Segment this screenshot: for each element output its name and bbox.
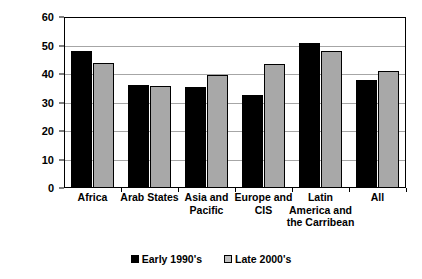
y-axis-tick-label: 40	[42, 68, 54, 80]
bar-early-1990s[interactable]	[299, 43, 320, 188]
bar-late-2000s[interactable]	[264, 64, 285, 188]
x-axis-categories: AfricaArab StatesAsia and PacificEurope …	[64, 191, 406, 251]
legend-item-label: Late 2000's	[235, 253, 291, 265]
bar-early-1990s[interactable]	[242, 95, 263, 188]
y-axis-tick-label: 60	[42, 11, 54, 23]
bar-early-1990s[interactable]	[71, 51, 92, 188]
legend-item[interactable]: Early 1990's	[131, 253, 202, 265]
bar-late-2000s[interactable]	[150, 86, 171, 188]
bar-group	[299, 17, 342, 188]
bar-group	[242, 17, 285, 188]
x-axis-tick-mark	[235, 188, 236, 192]
legend-item[interactable]: Late 2000's	[224, 253, 291, 265]
x-axis-tick-mark	[406, 188, 407, 192]
bar-group	[185, 17, 228, 188]
legend-swatch-gray-icon	[224, 255, 232, 263]
x-axis-tick-mark	[121, 188, 122, 192]
y-axis-tick-label: 20	[42, 125, 54, 137]
y-axis: 0102030405060	[0, 17, 64, 188]
legend-swatch-black-icon	[131, 255, 139, 263]
bar-late-2000s[interactable]	[93, 63, 114, 188]
bar-group	[356, 17, 399, 188]
y-axis-tick-label: 10	[42, 154, 54, 166]
bars-layer	[64, 17, 406, 188]
y-axis-tick-label: 0	[48, 182, 54, 194]
x-axis-tick-mark	[292, 188, 293, 192]
bar-early-1990s[interactable]	[185, 87, 206, 188]
bar-group	[71, 17, 114, 188]
x-axis-tick-mark	[178, 188, 179, 192]
y-axis-tick-label: 50	[42, 40, 54, 52]
bar-late-2000s[interactable]	[207, 75, 228, 188]
chart-legend: Early 1990'sLate 2000's	[0, 253, 422, 265]
x-axis-category-label: All	[341, 191, 414, 204]
bar-late-2000s[interactable]	[378, 71, 399, 188]
bar-chart: 0102030405060 AfricaArab StatesAsia and …	[0, 0, 422, 279]
bar-group	[128, 17, 171, 188]
bar-early-1990s[interactable]	[128, 85, 149, 188]
y-axis-tick-label: 30	[42, 97, 54, 109]
bar-late-2000s[interactable]	[321, 51, 342, 188]
bar-early-1990s[interactable]	[356, 80, 377, 188]
legend-item-label: Early 1990's	[142, 253, 202, 265]
x-axis-tick-mark	[349, 188, 350, 192]
